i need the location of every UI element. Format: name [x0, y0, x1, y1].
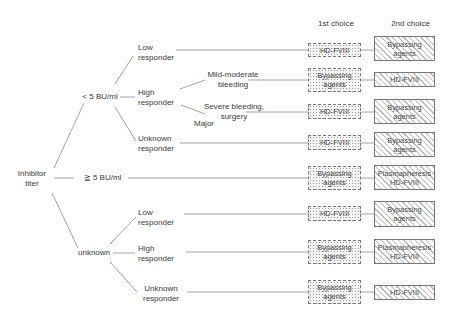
box-text: HD-FVIII: [390, 252, 419, 261]
box-text: Bypassing: [387, 136, 422, 145]
root-line1: Inhibitor: [12, 169, 52, 179]
label-line1: Low: [138, 208, 174, 218]
label-line2: responder: [138, 144, 174, 154]
box-text: agents: [323, 292, 346, 301]
second-choice-box-4: Bypassingagents: [374, 132, 435, 157]
titer-high: ≧ 5 BU/ml: [80, 173, 125, 183]
second-choice-box-2: HD-FVIII: [374, 72, 435, 87]
label-line1: Mild-moderate: [205, 70, 261, 80]
box-text: agents: [393, 214, 416, 223]
responder-unknown-unknown: Unknown responder: [138, 284, 184, 304]
bleeding-mild-moderate: Mild-moderate bleeding: [205, 70, 261, 90]
box-text: HD-FVIII: [320, 107, 349, 116]
label-line1: High: [138, 88, 174, 98]
box-text: HD-FVIII: [390, 178, 419, 187]
first-choice-box-5: Bypassingagents: [308, 166, 361, 190]
root-line2: titer: [12, 179, 52, 189]
label-line1: High: [138, 244, 174, 254]
responder-unknown-high: High responder: [138, 244, 174, 264]
box-text: Bypassing: [317, 283, 352, 292]
box-text: Plasmapheresis: [378, 243, 431, 252]
responder-low-unknown: Unknown responder: [138, 134, 174, 154]
label-line2: bleeding: [205, 80, 261, 90]
label-line1: Low: [138, 43, 174, 53]
box-text: agents: [393, 49, 416, 58]
box-text: HD-FVIII: [320, 138, 349, 147]
box-text: Bypassing: [387, 205, 422, 214]
label-line2: responder: [138, 294, 184, 304]
label-line2: responder: [138, 254, 174, 264]
box-text: agents: [393, 112, 416, 121]
second-choice-box-6: Bypassingagents: [374, 201, 435, 227]
second-choice-box-7: PlasmapheresisHD-FVIII: [374, 239, 435, 264]
box-text: agents: [323, 80, 346, 89]
box-text: Plasmapheresis: [378, 169, 431, 178]
first-choice-box-7: Bypassingagents: [308, 240, 361, 264]
responder-unknown-low: Low responder: [138, 208, 174, 228]
major-label: Major: [194, 119, 214, 129]
label-line1: Unknown: [138, 284, 184, 294]
box-text: agents: [393, 145, 416, 154]
titer-unknown: unknown: [76, 248, 112, 258]
header-first-choice: 1st choice: [311, 19, 361, 29]
box-text: HD-FVIII: [390, 75, 419, 84]
box-text: Bypassing: [317, 243, 352, 252]
first-choice-box-1: HD-FVIII: [308, 43, 361, 57]
first-choice-box-2: Bypassingagents: [308, 68, 361, 92]
first-choice-box-3: HD-FVIII: [308, 104, 361, 119]
responder-low-low: Low responder: [138, 43, 174, 63]
second-choice-box-3: Bypassingagents: [374, 99, 435, 124]
label-line2: responder: [138, 218, 174, 228]
box-text: HD-FVIII: [320, 209, 349, 218]
first-choice-box-4: HD-FVIII: [308, 135, 361, 150]
responder-low-high: High responder: [138, 88, 174, 108]
box-text: Bypassing: [317, 169, 352, 178]
box-text: Bypassing: [387, 40, 422, 49]
first-choice-box-8: Bypassingagents: [308, 280, 361, 304]
box-text: HD-FVIII: [390, 288, 419, 297]
box-text: agents: [323, 252, 346, 261]
root-node-inhibitor-titer: Inhibitor titer: [12, 169, 52, 189]
header-second-choice: 2nd choice: [383, 19, 438, 29]
first-choice-box-6: HD-FVIII: [308, 206, 361, 221]
box-text: Bypassing: [387, 103, 422, 112]
box-text: agents: [323, 178, 346, 187]
label-line1: Unknown: [138, 134, 174, 144]
label-line1: Severe bleeding,: [204, 102, 264, 112]
box-text: HD-FVIII: [320, 46, 349, 55]
second-choice-box-1: Bypassingagents: [374, 36, 435, 61]
label-line2: responder: [138, 98, 174, 108]
label-line2: responder: [138, 53, 174, 63]
box-text: Bypassing: [317, 71, 352, 80]
second-choice-box-5: PlasmapheresisHD-FVIII: [374, 165, 435, 190]
titer-low: < 5 BU/ml: [80, 92, 120, 102]
second-choice-box-8: HD-FVIII: [374, 285, 435, 300]
